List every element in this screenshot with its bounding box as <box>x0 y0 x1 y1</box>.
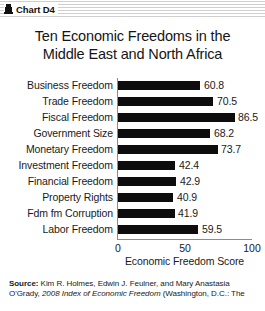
bar-value-label: 42.9 <box>180 175 200 187</box>
category-label: Financial Freedom <box>28 175 113 187</box>
bar-property-rights <box>118 193 173 202</box>
bar-value-label: 68.2 <box>214 127 234 139</box>
bar-value-label: 73.7 <box>221 143 241 155</box>
category-label: Property Rights <box>42 191 113 203</box>
source-prefix: Source: <box>9 279 38 288</box>
bar-value-label: 42.4 <box>179 159 199 171</box>
bar-row: Investment Freedom 42.4 <box>0 158 265 174</box>
bar-government-size <box>118 129 210 138</box>
bar-value-label: 41.9 <box>178 207 198 219</box>
bar-value-label: 60.8 <box>204 79 224 91</box>
bar-value-label: 70.5 <box>217 95 237 107</box>
source-work-title: 2008 Index of Economic Freedom <box>42 289 161 298</box>
bar-business-freedom <box>118 81 200 90</box>
x-tick-label: 50 <box>179 242 191 254</box>
bar-investment-freedom <box>118 161 175 170</box>
source-publisher: (Washington, D.C.: The <box>161 289 245 298</box>
bar-row: Trade Freedom 70.5 <box>0 94 265 110</box>
plot-area: Business Freedom 60.8 Trade Freedom 70.5… <box>0 19 265 272</box>
chart-figure-page: Chart D4 Ten Economic Freedoms in the Mi… <box>0 0 265 311</box>
caption-inner: Chart D4 <box>4 2 58 16</box>
bar-freedom-from-corruption <box>118 209 175 218</box>
bar-value-label: 86.5 <box>238 111 258 123</box>
bar-value-label: 59.5 <box>202 223 222 235</box>
bar-row: Government Size 68.2 <box>0 126 265 142</box>
bar-row: Monetary Freedom 73.7 <box>0 142 265 158</box>
bar-row: Fiscal Freedom 86.5 <box>0 110 265 126</box>
x-axis-title: Economic Freedom Score <box>117 255 252 268</box>
chart-icon <box>4 4 13 14</box>
category-label: Business Freedom <box>27 79 113 91</box>
bar-monetary-freedom <box>118 145 218 154</box>
bar-trade-freedom <box>118 97 213 106</box>
category-label: Fdm fm Corruption <box>27 207 113 219</box>
bar-fiscal-freedom <box>118 113 235 122</box>
category-label: Labor Freedom <box>43 223 114 235</box>
bar-row: Business Freedom 60.8 <box>0 78 265 94</box>
source-note: Source: Kim R. Holmes, Edwin J. Feulner,… <box>9 279 259 298</box>
category-label: Investment Freedom <box>19 159 114 171</box>
caption-label: Chart D4 <box>16 4 55 15</box>
bar-value-label: 40.9 <box>177 191 197 203</box>
x-axis-ticks: 0 50 100 <box>0 242 265 256</box>
x-tick-label: 100 <box>243 242 261 254</box>
figure-body: Ten Economic Freedoms in the Middle East… <box>0 19 265 272</box>
bar-rows: Business Freedom 60.8 Trade Freedom 70.5… <box>0 78 265 240</box>
category-label: Trade Freedom <box>42 95 113 107</box>
category-label: Fiscal Freedom <box>42 111 113 123</box>
category-label: Government Size <box>33 127 113 139</box>
bar-labor-freedom <box>118 225 198 234</box>
category-label: Monetary Freedom <box>26 143 113 155</box>
bar-financial-freedom <box>118 177 176 186</box>
bar-row: Fdm fm Corruption 41.9 <box>0 206 265 222</box>
bar-row: Financial Freedom 42.9 <box>0 174 265 190</box>
bar-row: Property Rights 40.9 <box>0 190 265 206</box>
x-tick-label: 0 <box>115 242 121 254</box>
bar-row: Labor Freedom 59.5 <box>0 222 265 238</box>
caption-bar: Chart D4 <box>0 0 265 19</box>
